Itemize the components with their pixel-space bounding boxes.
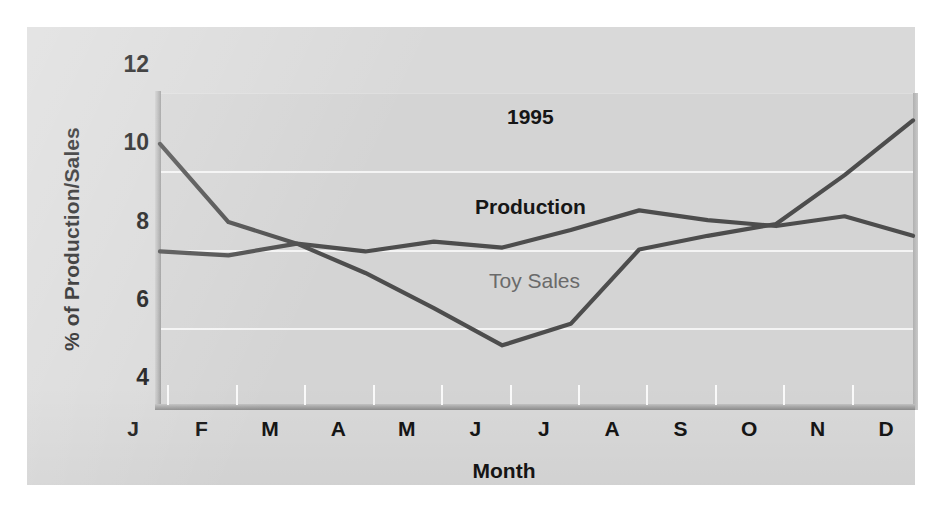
chart-figure: % of Production/Sales 1210864 JFMAMJJASO… <box>0 0 944 513</box>
line-production <box>160 210 913 255</box>
line-toy-sales <box>160 120 913 345</box>
figure-panel: % of Production/Sales 1210864 JFMAMJJASO… <box>27 27 915 485</box>
series-lines <box>27 27 944 513</box>
